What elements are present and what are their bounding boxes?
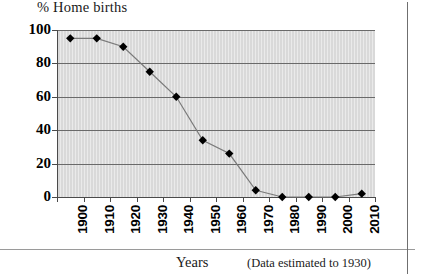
y-axis-tick-label: 60	[7, 89, 51, 104]
y-axis-line	[57, 30, 58, 198]
x-axis-tick-label: 1940	[182, 205, 196, 261]
footer-horizontal-rule	[0, 249, 415, 250]
x-axis-tick-mark	[349, 197, 350, 202]
x-axis-title: Years	[176, 254, 208, 271]
x-axis-tick-mark	[375, 197, 376, 202]
y-axis-tick-mark	[52, 97, 57, 98]
page-border-vertical-line	[407, 2, 408, 274]
gridline	[57, 130, 375, 131]
x-axis-tick-mark	[57, 197, 58, 202]
y-axis-tick-label: 0	[7, 189, 51, 204]
y-axis-tick-mark	[52, 30, 57, 31]
x-axis-tick-label: 1980	[288, 205, 302, 261]
x-axis-tick-mark	[137, 197, 138, 202]
y-axis-tick-mark	[52, 63, 57, 64]
gridline	[57, 30, 375, 31]
x-axis-tick-mark	[190, 197, 191, 202]
y-axis-tick-label: 100	[7, 22, 51, 37]
x-axis-tick-mark	[216, 197, 217, 202]
x-axis-tick-label: 1920	[129, 205, 143, 261]
x-axis-tick-mark	[163, 197, 164, 202]
x-axis-tick-label: 1900	[76, 205, 90, 261]
gridline	[57, 164, 375, 165]
chart-footnote: (Data estimated to 1930)	[247, 256, 371, 271]
x-axis-tick-label: 1970	[262, 205, 276, 261]
x-axis-tick-label: 2010	[368, 205, 382, 261]
x-axis-tick-mark	[243, 197, 244, 202]
y-axis-tick-mark	[52, 164, 57, 165]
x-axis-tick-mark	[84, 197, 85, 202]
y-axis-tick-label: 80	[7, 55, 51, 70]
y-axis-tick-label: 40	[7, 122, 51, 137]
x-axis-tick-label: 2000	[341, 205, 355, 261]
x-axis-tick-label: 1990	[315, 205, 329, 261]
x-axis-tick-label: 1930	[156, 205, 170, 261]
plot-area	[57, 30, 375, 197]
gridline	[57, 63, 375, 64]
x-axis-tick-mark	[296, 197, 297, 202]
gridline	[57, 97, 375, 98]
chart-title: % Home births	[37, 0, 127, 16]
x-axis-tick-mark	[269, 197, 270, 202]
y-axis-tick-mark	[52, 130, 57, 131]
chart-page: % Home births 020406080100 1900191019201…	[0, 0, 427, 280]
y-axis-tick-label: 20	[7, 156, 51, 171]
x-axis-tick-mark	[322, 197, 323, 202]
x-axis-tick-mark	[110, 197, 111, 202]
x-axis-tick-label: 1960	[235, 205, 249, 261]
x-axis-tick-label: 1950	[209, 205, 223, 261]
x-axis-tick-label: 1910	[103, 205, 117, 261]
